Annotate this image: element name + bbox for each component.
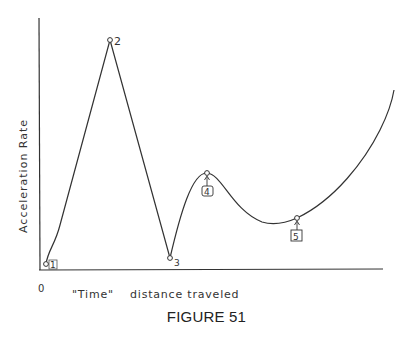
point-2-marker	[108, 38, 113, 43]
point-4-label: 4	[204, 187, 210, 197]
point-1-marker	[44, 262, 49, 267]
origin-label: 0	[38, 283, 44, 294]
point-2-label: 2	[114, 35, 121, 48]
x-axis	[39, 269, 383, 270]
acceleration-diagram: 1 2 3 4 5 Acceleration Rate 0 "Time" dis…	[0, 0, 413, 343]
point-4-marker	[205, 171, 210, 176]
point-1-label: 1	[50, 260, 56, 270]
x-axis-distance-label: distance traveled	[130, 288, 239, 301]
x-axis-time-label: "Time"	[72, 288, 114, 301]
point-3-label: 3	[174, 258, 180, 268]
point-5-marker	[295, 216, 300, 221]
y-axis-label: Acceleration Rate	[17, 119, 30, 233]
point-5-label: 5	[293, 232, 299, 242]
acceleration-curve	[46, 40, 394, 264]
point-3-marker	[168, 256, 173, 261]
figure-caption: FIGURE 51	[0, 308, 413, 325]
y-axis	[39, 18, 40, 270]
